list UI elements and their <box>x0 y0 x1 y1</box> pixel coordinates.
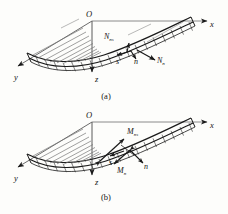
z-axis-label: z <box>94 74 99 84</box>
origin-label: O <box>86 9 92 19</box>
shell-forces-moments-figure: x y z O <box>0 0 228 214</box>
s-vector-label: s <box>116 57 119 66</box>
z-axis-label: z <box>94 177 99 187</box>
n-vector-label: n <box>134 57 138 66</box>
x-axis-label: x <box>209 19 214 29</box>
panel-b-caption: (b) <box>101 192 111 202</box>
s-vector-label: s <box>109 158 112 167</box>
origin-label: O <box>86 110 92 120</box>
y-axis-label: y <box>13 173 18 183</box>
figure-background <box>0 0 228 214</box>
x-axis-label: x <box>209 120 214 130</box>
n-vector-label: n <box>144 162 148 171</box>
y-axis-label: y <box>13 72 18 82</box>
panel-a-caption: (a) <box>101 91 111 101</box>
